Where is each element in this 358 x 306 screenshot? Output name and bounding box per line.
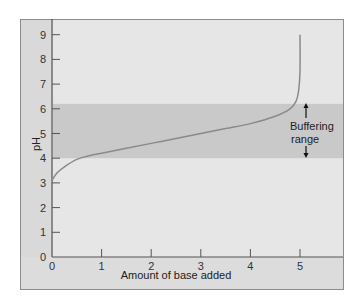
y-tick-label: 7 (40, 78, 46, 90)
y-tick-label: 0 (40, 251, 46, 263)
y-axis-title: pH (30, 137, 42, 151)
y-tick-label: 8 (40, 53, 46, 65)
y-tick-label: 4 (40, 152, 46, 164)
x-tick-label: 5 (297, 260, 303, 272)
y-tick-label: 6 (40, 103, 46, 115)
y-tick-label: 9 (40, 29, 46, 41)
y-tick-label: 1 (40, 226, 46, 238)
annotation-line2: range (291, 133, 319, 145)
y-tick-label: 3 (40, 177, 46, 189)
titration-chart: 0123456789012345 pH Amount of base added… (0, 0, 358, 306)
y-tick-label: 2 (40, 202, 46, 214)
x-tick-label: 4 (247, 260, 253, 272)
x-axis-title: Amount of base added (121, 269, 232, 281)
annotation-line1: Buffering (290, 120, 334, 132)
x-tick-label: 1 (99, 260, 105, 272)
x-tick-label: 0 (49, 260, 55, 272)
